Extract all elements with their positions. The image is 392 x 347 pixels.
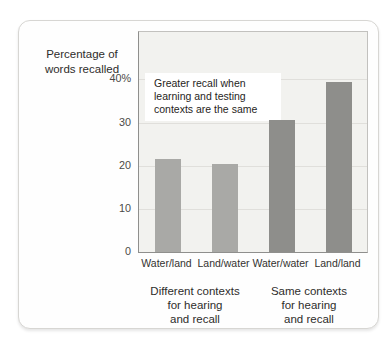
x-tick-label-land-land: Land/land [309,257,366,270]
chart-card: Percentage of words recalled Greater rec… [18,20,379,329]
x-tick-label-water-land: Water/land [138,257,195,270]
group-label-different-contexts: Different contexts for hearing and recal… [138,284,252,326]
plot-area: Greater recall when learning and testing… [138,31,368,253]
bar-water-water [269,120,295,252]
bar-land-water [212,164,238,252]
x-tick-label-land-water: Land/water [195,257,252,270]
y-tick-label-20: 20 [91,158,131,172]
y-tick-label-40: 40% [91,71,131,85]
y-tick-label-0: 0 [91,244,131,258]
bar-water-land [155,159,181,252]
group-label-same-contexts: Same contexts for hearing and recall [252,284,366,326]
y-tick-label-30: 30 [91,115,131,129]
x-tick-label-water-water: Water/water [252,257,309,270]
annotation-box: Greater recall when learning and testing… [145,73,281,121]
y-tick-label-10: 10 [91,201,131,215]
bar-land-land [326,82,352,252]
